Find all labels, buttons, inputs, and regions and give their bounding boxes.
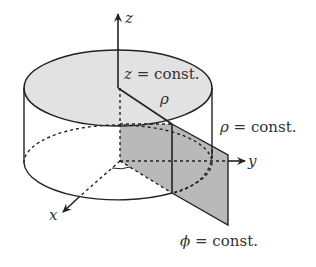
x-axis-dashed xyxy=(78,161,120,198)
phi-angle-arc xyxy=(112,167,130,169)
phi-plane-inner xyxy=(120,124,172,193)
phi-const-label: ϕ = const. xyxy=(180,232,258,250)
rho-const-label: ρ = const. xyxy=(219,118,297,136)
z-const-label: z = const. xyxy=(123,65,200,83)
y-axis-label: y xyxy=(247,152,257,170)
z-axis-label: z xyxy=(124,9,133,27)
x-axis xyxy=(63,198,78,212)
rho-radius-label: ρ xyxy=(159,90,169,108)
x-axis-label: x xyxy=(49,206,58,224)
cylindrical-coordinates-diagram: z y x z = const. ρ ρ = const. ϕ = const. xyxy=(0,0,316,267)
